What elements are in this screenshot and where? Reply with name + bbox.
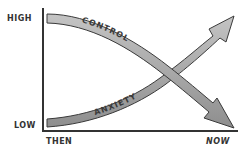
anxiety-arrow: ANXIETY: [47, 16, 234, 127]
x-axis-now-label: NOW: [206, 137, 230, 146]
x-axis-then-label: THEN: [46, 137, 72, 146]
y-axis-high-label: HIGH: [7, 14, 32, 23]
anxiety-arrow-shape: [47, 16, 234, 127]
chart-canvas: ANXIETY CONTROL: [0, 0, 252, 154]
y-axis-low-label: LOW: [14, 121, 36, 130]
control-arrow: CONTROL: [47, 14, 234, 128]
control-anxiety-diagram: ANXIETY CONTROL HIGH LOW THEN NOW: [0, 0, 252, 154]
control-arrow-shape: [47, 14, 234, 128]
